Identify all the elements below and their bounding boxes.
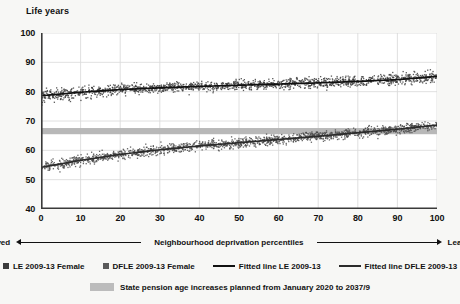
legend-label: Fitted line DFLE 2009-13 bbox=[365, 262, 457, 271]
legend-label: State pension age increases planned from… bbox=[120, 283, 370, 292]
x-tick-0: 0 bbox=[26, 213, 56, 223]
legend-square-icon bbox=[103, 263, 109, 269]
deprivation-axis-annotation: Most deprived Neighbourhood deprivation … bbox=[0, 234, 460, 250]
legend-item-2[interactable]: DFLE 2009-13 Female bbox=[103, 262, 195, 271]
x-tick-10: 10 bbox=[66, 213, 96, 223]
legend-line-icon bbox=[339, 265, 361, 267]
legend-label: DFLE 2009-13 Female bbox=[113, 262, 195, 271]
deprivation-axis-label: Neighbourhood deprivation percentiles bbox=[154, 238, 303, 247]
y-tick-50: 50 bbox=[7, 175, 35, 185]
x-tick-80: 80 bbox=[343, 213, 373, 223]
y-tick-60: 60 bbox=[7, 145, 35, 155]
y-tick-70: 70 bbox=[7, 116, 35, 126]
x-tick-40: 40 bbox=[184, 213, 214, 223]
x-tick-90: 90 bbox=[382, 213, 412, 223]
y-tick-80: 80 bbox=[7, 87, 35, 97]
right-arrow-icon bbox=[317, 239, 442, 245]
legend-row-band: State pension age increases planned from… bbox=[0, 281, 460, 293]
legend-band-icon bbox=[90, 283, 114, 291]
x-tick-60: 60 bbox=[264, 213, 294, 223]
legend-square-icon bbox=[3, 263, 9, 269]
least-deprived-label: Least deprived bbox=[448, 238, 460, 247]
legend-item-3[interactable]: Fitted line LE 2009-13 bbox=[213, 262, 321, 271]
x-tick-50: 50 bbox=[224, 213, 254, 223]
legend-line-icon bbox=[213, 265, 235, 267]
chart-root: Life years 100908070605040 0102030405060… bbox=[0, 0, 460, 304]
y-axis-title: Life years bbox=[26, 6, 69, 16]
legend-label: LE 2009-13 Female bbox=[13, 262, 85, 271]
y-tick-90: 90 bbox=[7, 57, 35, 67]
y-tick-100: 100 bbox=[7, 28, 35, 38]
chart-canvas bbox=[41, 33, 437, 209]
x-tick-70: 70 bbox=[303, 213, 333, 223]
left-arrow-icon bbox=[16, 239, 141, 245]
x-tick-30: 30 bbox=[145, 213, 175, 223]
x-tick-100: 100 bbox=[422, 213, 452, 223]
legend-row-primary: LE 2009-13 FemaleDFLE 2009-13 FemaleFitt… bbox=[0, 260, 460, 272]
legend-label: Fitted line LE 2009-13 bbox=[239, 262, 321, 271]
legend-item-1[interactable]: State pension age increases planned from… bbox=[90, 283, 370, 292]
legend-item-1[interactable]: LE 2009-13 Female bbox=[3, 262, 85, 271]
x-tick-20: 20 bbox=[105, 213, 135, 223]
most-deprived-label: Most deprived bbox=[0, 238, 10, 247]
plot-area bbox=[41, 33, 437, 209]
legend-item-4[interactable]: Fitted line DFLE 2009-13 bbox=[339, 262, 457, 271]
